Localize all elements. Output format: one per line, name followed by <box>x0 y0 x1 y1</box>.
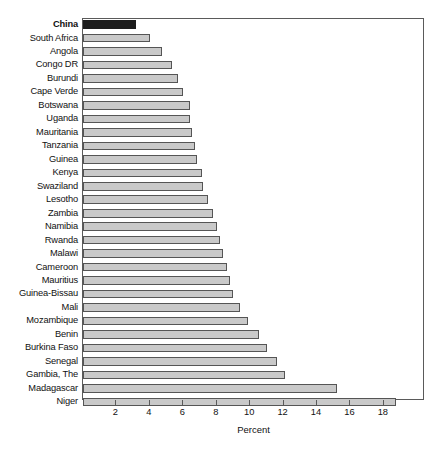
bar <box>83 330 259 339</box>
bar <box>83 384 337 393</box>
bar <box>83 115 190 124</box>
x-axis-tick-label: 12 <box>277 408 287 417</box>
bar <box>83 276 230 285</box>
bar-row: Uganda <box>0 112 434 125</box>
bar <box>83 101 190 110</box>
category-label: Rwanda <box>0 236 78 245</box>
bar <box>83 74 178 83</box>
category-label: Tanzania <box>0 141 78 150</box>
bar <box>83 290 233 299</box>
bar <box>83 47 162 56</box>
x-axis-tick-label: 14 <box>311 408 321 417</box>
x-axis-tick <box>182 400 183 405</box>
bar-row: Kenya <box>0 166 434 179</box>
bar <box>83 263 227 272</box>
bar-chart: ChinaSouth AfricaAngolaCongo DRBurundiCa… <box>0 0 434 452</box>
bar-row: Madagascar <box>0 382 434 395</box>
category-label: Madagascar <box>0 384 78 393</box>
category-label: Cape Verde <box>0 87 78 96</box>
bar <box>83 371 285 380</box>
bar-row: Mauritius <box>0 274 434 287</box>
bar <box>83 357 277 366</box>
category-label: Botswana <box>0 101 78 110</box>
bar-row: Zambia <box>0 207 434 220</box>
bar-row: Burkina Faso <box>0 341 434 354</box>
x-axis-tick-label: 6 <box>180 408 185 417</box>
x-axis-tick <box>216 400 217 405</box>
bar-rows: ChinaSouth AfricaAngolaCongo DRBurundiCa… <box>0 18 434 409</box>
category-label: Niger <box>0 397 78 406</box>
bar <box>83 128 192 137</box>
bar-row: China <box>0 18 434 31</box>
x-axis-tick <box>383 400 384 405</box>
bar-row: Congo DR <box>0 58 434 71</box>
bar <box>83 155 197 164</box>
category-label: Mali <box>0 303 78 312</box>
bar <box>83 222 217 231</box>
category-label: Cameroon <box>0 263 78 272</box>
category-label: Gambia, The <box>0 370 78 379</box>
bar-row: South Africa <box>0 31 434 44</box>
bar <box>83 249 223 258</box>
bar <box>83 20 136 29</box>
bar-row: Lesotho <box>0 193 434 206</box>
category-label: Mauritania <box>0 128 78 137</box>
category-label: Angola <box>0 47 78 56</box>
x-axis-tick-label: 8 <box>213 408 218 417</box>
bar <box>83 61 172 70</box>
x-axis-tick <box>349 400 350 405</box>
bar-row: Namibia <box>0 220 434 233</box>
x-axis-tick <box>249 400 250 405</box>
bar-row: Tanzania <box>0 139 434 152</box>
category-label: South Africa <box>0 34 78 43</box>
bar-row: Senegal <box>0 355 434 368</box>
bar-row: Botswana <box>0 99 434 112</box>
category-label: Zambia <box>0 209 78 218</box>
bar-row: Malawi <box>0 247 434 260</box>
category-label: Senegal <box>0 357 78 366</box>
category-label: Kenya <box>0 168 78 177</box>
bar-row: Burundi <box>0 72 434 85</box>
bar-row: Mali <box>0 301 434 314</box>
category-label: Burundi <box>0 74 78 83</box>
bar <box>83 303 240 312</box>
bar-row: Mozambique <box>0 314 434 327</box>
bar <box>83 182 203 191</box>
bar-row: Cameroon <box>0 260 434 273</box>
category-label: Guinea <box>0 155 78 164</box>
x-axis-title: Percent <box>82 424 425 435</box>
bar-row: Gambia, The <box>0 368 434 381</box>
bar-row: Guinea <box>0 153 434 166</box>
category-label: Benin <box>0 330 78 339</box>
bar <box>83 317 248 326</box>
category-label: Swaziland <box>0 182 78 191</box>
category-label: Congo DR <box>0 60 78 69</box>
bar <box>83 236 220 245</box>
x-axis: 24681012141618 Percent <box>82 400 425 452</box>
category-label: Uganda <box>0 114 78 123</box>
bar <box>83 344 267 353</box>
bar-row: Angola <box>0 45 434 58</box>
bar <box>83 195 208 204</box>
category-label: Mozambique <box>0 316 78 325</box>
bar-row: Rwanda <box>0 234 434 247</box>
bar-row: Cape Verde <box>0 85 434 98</box>
x-axis-tick-label: 18 <box>378 408 388 417</box>
bar-row: Swaziland <box>0 180 434 193</box>
x-axis-tick <box>316 400 317 405</box>
category-label: China <box>0 20 78 29</box>
bar <box>83 209 213 218</box>
x-axis-tick <box>115 400 116 405</box>
category-label: Lesotho <box>0 195 78 204</box>
bar-row: Guinea-Bissau <box>0 287 434 300</box>
x-axis-tick-label: 4 <box>146 408 151 417</box>
x-axis-tick-label: 2 <box>113 408 118 417</box>
bar-row: Mauritania <box>0 126 434 139</box>
category-label: Mauritius <box>0 276 78 285</box>
x-axis-tick <box>283 400 284 405</box>
bar <box>83 169 202 178</box>
bar <box>83 88 183 97</box>
bar-row: Benin <box>0 328 434 341</box>
bar <box>83 34 150 43</box>
category-label: Guinea-Bissau <box>0 289 78 298</box>
